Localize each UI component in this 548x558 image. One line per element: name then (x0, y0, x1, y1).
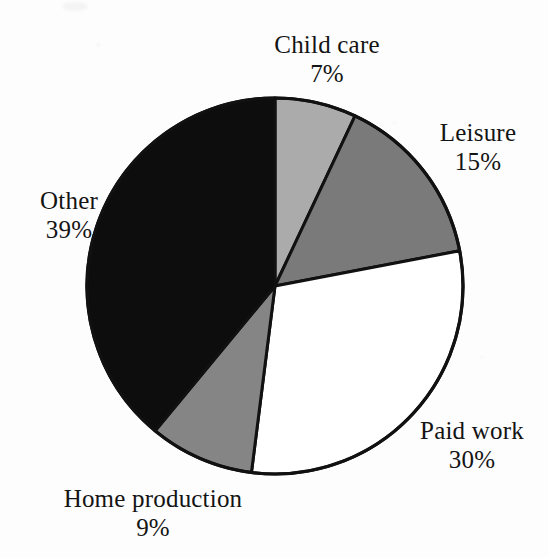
slice-label-child-care-value: 7% (242, 59, 412, 88)
slice-label-other: Other 39% (6, 186, 132, 244)
slice-label-paid-work: Paid work 30% (396, 416, 548, 474)
slice-label-paid-work-name: Paid work (396, 416, 548, 445)
slice-label-leisure-value: 15% (408, 147, 548, 176)
pie-chart-figure: Child care 7% Leisure 15% Paid work 30% … (0, 0, 548, 558)
slice-label-other-value: 39% (6, 215, 132, 244)
slice-label-leisure: Leisure 15% (408, 118, 548, 176)
slice-label-paid-work-value: 30% (396, 445, 548, 474)
slice-label-home-production-value: 9% (28, 513, 278, 542)
slice-label-leisure-name: Leisure (408, 118, 548, 147)
slice-label-home-production-name: Home production (28, 484, 278, 513)
slice-label-child-care: Child care 7% (242, 30, 412, 88)
slice-label-other-name: Other (6, 186, 132, 215)
slice-label-child-care-name: Child care (242, 30, 412, 59)
slice-label-home-production: Home production 9% (28, 484, 278, 542)
